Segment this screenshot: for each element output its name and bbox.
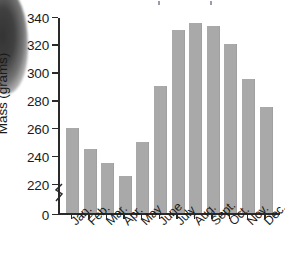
x-tick xyxy=(176,213,178,219)
bar xyxy=(154,86,167,213)
bar xyxy=(136,142,149,214)
y-tick-label: 260 xyxy=(27,123,49,137)
y-tick-label: 0 xyxy=(42,208,49,222)
x-tick xyxy=(264,213,266,219)
y-tick xyxy=(52,17,58,19)
x-tick xyxy=(71,213,73,219)
bar-series xyxy=(60,18,280,213)
cropped-title-artifact xyxy=(150,0,270,6)
x-tick xyxy=(106,213,108,219)
x-tick xyxy=(247,213,249,219)
x-tick xyxy=(88,213,90,219)
y-tick-label: 300 xyxy=(27,67,49,81)
bar xyxy=(224,44,237,213)
y-tick-label: 240 xyxy=(27,150,49,164)
y-tick xyxy=(52,214,58,216)
y-tick xyxy=(52,44,58,46)
y-tick-label: 280 xyxy=(27,95,49,109)
y-tick xyxy=(52,128,58,130)
x-tick xyxy=(229,213,231,219)
y-axis-title: Mass (grams) xyxy=(0,53,10,134)
bar xyxy=(66,128,79,214)
bar xyxy=(172,30,185,213)
x-axis-labels: Jan.Feb.Mar.Apr.MayJuneJulyAug.Sept.Oct.… xyxy=(58,219,285,261)
bar xyxy=(189,23,202,213)
y-tick xyxy=(52,100,58,102)
y-tick xyxy=(52,156,58,158)
y-tick-label: 220 xyxy=(27,178,49,192)
x-tick xyxy=(123,213,125,219)
x-tick xyxy=(159,213,161,219)
x-tick xyxy=(194,213,196,219)
bar xyxy=(207,26,220,213)
y-tick xyxy=(52,72,58,74)
bar xyxy=(260,107,273,214)
bar xyxy=(242,79,255,213)
bar-chart: Mass (grams) 0220240260280300320340 Jan.… xyxy=(0,0,285,261)
y-tick-label: 320 xyxy=(27,39,49,53)
plot-area: 0220240260280300320340 xyxy=(58,18,280,215)
x-tick xyxy=(141,213,143,219)
x-tick xyxy=(211,213,213,219)
y-tick-label: 340 xyxy=(27,11,49,25)
